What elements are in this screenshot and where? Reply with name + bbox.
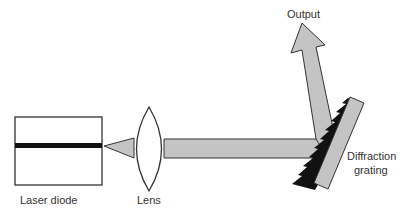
grating-label-line1: Diffraction	[347, 150, 396, 162]
laser-diode	[15, 117, 102, 185]
grating-label-line2: grating	[354, 164, 388, 176]
lens-label: Lens	[137, 194, 161, 206]
diagram-canvas: Output Diffraction grating Laser diode L…	[0, 0, 405, 218]
laser-diode-label: Laser diode	[20, 194, 78, 206]
output-label: Output	[287, 8, 320, 20]
laser-diode-body	[15, 117, 102, 185]
lens	[137, 107, 162, 191]
diverging-beam	[104, 138, 134, 158]
laser-active-region	[15, 143, 102, 148]
